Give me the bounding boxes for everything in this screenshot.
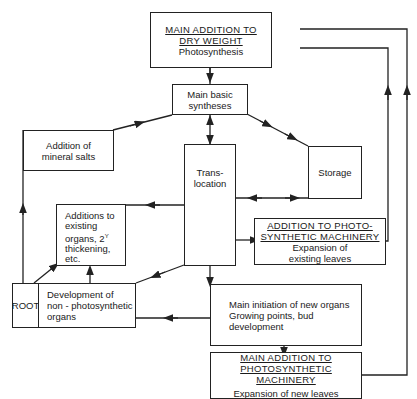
init-line3: development — [229, 321, 283, 332]
root-label: ROOT — [12, 300, 39, 311]
node-existing-organs: Additions to existing organs, 2Y thicken… — [56, 204, 126, 266]
mineral-line2: mineral salts — [42, 151, 95, 162]
node-photo-new: MAIN ADDITION TO PHOTOSYNTHETIC MACHINER… — [210, 352, 362, 399]
dry-weight-subtitle: Photosynthesis — [179, 46, 243, 57]
nonphoto-line3: organs — [47, 311, 76, 322]
node-basic-syntheses: Main basic syntheses — [172, 84, 248, 115]
node-storage: Storage — [308, 146, 362, 199]
photo-existing-sub1: Expansion of — [293, 242, 348, 253]
photo-existing-title1: ADDITION TO PHOTO- — [267, 220, 373, 231]
node-translocation: Trans- location — [184, 144, 236, 266]
photo-new-title1: MAIN ADDITION TO — [240, 352, 332, 363]
dry-weight-title-1: MAIN ADDITION TO — [165, 24, 257, 35]
node-photo-existing: ADDITION TO PHOTO- SYNTHETIC MACHINERY E… — [254, 218, 386, 265]
node-dry-weight: MAIN ADDITION TO DRY WEIGHT Photosynthes… — [150, 12, 272, 68]
init-line1: Main initiation of new organs — [229, 299, 349, 310]
trans-line2: location — [194, 178, 227, 189]
node-non-photosynthetic: Development of non - photosynthetic orga… — [38, 283, 136, 328]
node-root: ROOT — [12, 283, 39, 328]
node-initiation: Main initiation of new organs Growing po… — [210, 284, 362, 346]
photo-new-subtitle: Expansion of new leaves — [233, 388, 338, 399]
organs-sup: Y — [105, 233, 109, 239]
dry-weight-title-2: DRY WEIGHT — [179, 35, 242, 46]
photo-existing-sub2: existing leaves — [289, 253, 351, 264]
mineral-line1: Addition of — [46, 140, 91, 151]
storage-label: Storage — [318, 167, 351, 178]
photo-new-title2: PHOTOSYNTHETIC MACHINERY — [211, 363, 361, 385]
node-mineral-salts: Addition of mineral salts — [23, 130, 114, 171]
photo-existing-title2: SYNTHETIC MACHINERY — [260, 231, 379, 242]
nonphoto-line2: non - photosynthetic — [47, 300, 133, 311]
organs-line2: existing — [65, 221, 97, 231]
basic-line2: syntheses — [189, 100, 232, 111]
nonphoto-line1: Development of — [47, 289, 114, 300]
init-line2: Growing points, bud — [229, 310, 314, 321]
organs-line5: etc. — [65, 254, 80, 264]
basic-line1: Main basic — [187, 89, 232, 100]
trans-line1: Trans- — [196, 167, 223, 178]
